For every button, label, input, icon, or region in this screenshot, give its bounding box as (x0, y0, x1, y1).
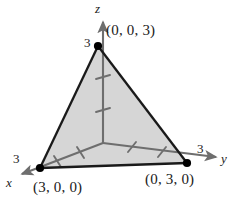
vertex-dot-y (183, 159, 191, 167)
z-axis-label: z (95, 2, 100, 15)
y-axis-label: y (221, 152, 227, 165)
coordinate-label-x-intercept: (3, 0, 0) (33, 180, 82, 195)
vertex-dot-x (36, 164, 44, 172)
coordinate-label-z-intercept: (0, 0, 3) (106, 23, 155, 38)
coordinate-label-y-intercept: (0, 3, 0) (145, 172, 194, 187)
x-axis-label: x (6, 176, 12, 189)
figure-container: z x y 3 3 3 (0, 0, 3) (3, 0, 0) (0, 3, 0… (0, 0, 236, 203)
vertex-dot-z (94, 42, 102, 50)
x-axis-tick-value: 3 (13, 152, 20, 165)
y-axis-tick-value: 3 (197, 142, 204, 155)
z-axis-tick-value: 3 (84, 36, 91, 49)
